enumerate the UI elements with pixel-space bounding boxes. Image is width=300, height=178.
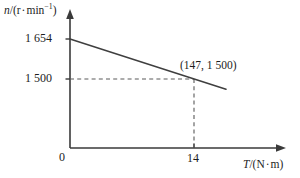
x-axis-arrow-icon (276, 144, 286, 152)
x-axis-label: T/(N·m) (243, 159, 283, 171)
x-axis-label-close: ) (280, 158, 284, 170)
y-axis-label-close: ) (53, 4, 57, 16)
point-coordinate-annotation: (147, 1 500) (180, 60, 237, 72)
y-axis-label-exponent: −1 (44, 2, 52, 11)
chart-canvas (0, 0, 300, 178)
y-axis-label-slash: /(r (10, 4, 21, 16)
x-axis-label-slash: /(N (249, 158, 264, 170)
x-axis-label-unit: m (271, 158, 280, 170)
y-axis-label: n/(r·min−1) (4, 3, 57, 16)
y-axis-arrow-icon (66, 9, 74, 19)
y-tick-label-1500: 1 500 (25, 72, 52, 84)
y-tick-label-1654: 1 654 (25, 32, 52, 44)
x-tick-label-14: 14 (187, 152, 199, 164)
y-axis-label-unit: min (26, 4, 44, 16)
chart-figure: n/(r·min−1) T/(N·m) 1 654 1 500 14 0 (14… (0, 0, 300, 178)
origin-label: 0 (59, 151, 65, 163)
